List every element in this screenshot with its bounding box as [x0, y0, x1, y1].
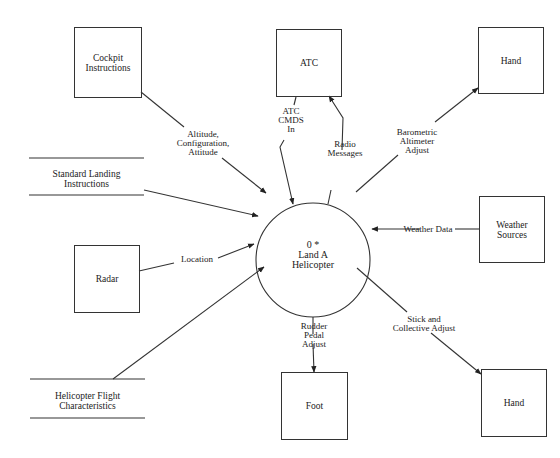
flow-label-rudder: RudderPedalAdjust — [294, 322, 334, 349]
entity-label: ATC — [300, 58, 318, 68]
data-store-standard-landing: Standard LandingInstructions — [29, 169, 144, 189]
entity-atc: ATC — [276, 29, 342, 97]
process-land-a-helicopter: 0 * Land A Helicopter — [263, 240, 363, 270]
entity-label: Foot — [306, 401, 323, 411]
entity-label: Hand — [504, 398, 525, 408]
store-label: Characteristics — [59, 401, 115, 411]
entity-label: Weather — [496, 220, 527, 230]
flow-label-radio-messages: RadioMessages — [315, 140, 375, 158]
entity-label: Sources — [497, 230, 527, 240]
entity-label: Instructions — [86, 63, 131, 73]
flow-label-barometric: BarometricAltimeterAdjust — [387, 128, 447, 155]
entity-hand-bottom: Hand — [481, 369, 547, 437]
store-label: Helicopter Flight — [55, 391, 120, 401]
entity-foot: Foot — [281, 372, 348, 440]
flow-text: Adjust — [405, 145, 429, 155]
flow-text: Adjust — [302, 339, 326, 349]
flow-label-altitude: Altitude,Configuration,Attitude — [168, 130, 238, 157]
data-store-flight-characteristics: Helicopter FlightCharacteristics — [30, 391, 145, 411]
flow-text: Location — [181, 254, 213, 264]
flow-label-weather-data: Weather Data — [398, 225, 458, 234]
flow-label-location: Location — [172, 255, 222, 264]
flow-text: Messages — [328, 148, 363, 158]
store-label: Standard Landing — [53, 169, 121, 179]
entity-label: Hand — [501, 56, 522, 66]
entity-label: Cockpit — [93, 53, 123, 63]
entity-weather-sources: WeatherSources — [479, 196, 545, 263]
entity-label: Radar — [96, 274, 119, 284]
store-label: Instructions — [64, 179, 109, 189]
flow-text: Weather Data — [404, 224, 453, 234]
flow-text: Attitude — [188, 147, 218, 157]
entity-cockpit-instructions: CockpitInstructions — [74, 27, 142, 98]
flow-text: Collective Adjust — [393, 323, 456, 333]
process-name: Helicopter — [292, 259, 334, 270]
flow-label-atc-cmds: ATCCMDSIn — [276, 107, 306, 134]
flow-label-stick-collective: Stick andCollective Adjust — [384, 315, 464, 333]
entity-hand-top: Hand — [478, 27, 544, 94]
entity-radar: Radar — [74, 245, 140, 313]
flow-text: In — [287, 124, 295, 134]
